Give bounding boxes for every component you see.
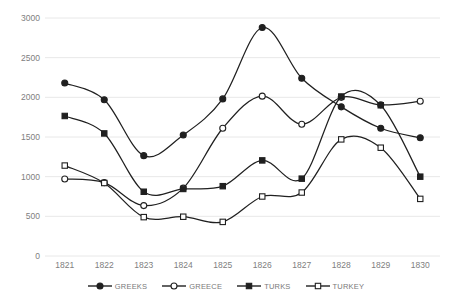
data-point-marker — [418, 174, 423, 179]
data-point-marker — [220, 125, 226, 131]
series-line — [65, 136, 421, 223]
data-point-marker — [338, 104, 344, 110]
data-point-marker — [180, 132, 186, 138]
series-layer — [45, 18, 440, 256]
data-point-marker — [259, 93, 265, 99]
data-point-marker — [171, 283, 177, 289]
y-axis-tick-label: 500 — [6, 212, 40, 220]
data-point-marker — [181, 214, 186, 219]
data-point-marker — [141, 214, 146, 219]
data-point-marker — [62, 113, 67, 118]
data-point-marker — [260, 194, 265, 199]
legend-marker-open-square — [305, 281, 331, 291]
legend-marker-filled-square — [236, 281, 262, 291]
x-axis-tick-label: 1823 — [124, 260, 164, 270]
data-point-marker — [62, 176, 68, 182]
y-axis: 050010001500200025003000 — [0, 18, 40, 256]
data-point-marker — [62, 163, 67, 168]
legend-item-turks[interactable]: TURKS — [236, 281, 290, 291]
x-axis-tick-label: 1828 — [321, 260, 361, 270]
data-point-marker — [220, 219, 225, 224]
x-axis-tick-label: 1822 — [84, 260, 124, 270]
data-point-marker — [97, 283, 103, 289]
x-axis-tick-label: 1826 — [242, 260, 282, 270]
series-line — [65, 27, 421, 157]
data-point-marker — [299, 121, 305, 127]
y-axis-tick-label: 0 — [6, 252, 40, 260]
x-axis-tick-label: 1821 — [45, 260, 85, 270]
y-axis-tick-label: 3000 — [6, 14, 40, 22]
legend-marker-open-circle — [161, 281, 187, 291]
data-point-marker — [101, 97, 107, 103]
data-point-marker — [378, 145, 383, 150]
legend-item-turkey[interactable]: TURKEY — [305, 281, 365, 291]
legend-item-greeks[interactable]: GREEKS — [87, 281, 147, 291]
data-point-marker — [220, 183, 225, 188]
data-point-marker — [102, 180, 107, 185]
data-point-marker — [220, 96, 226, 102]
data-point-marker — [299, 176, 304, 181]
x-axis-tick-label: 1827 — [282, 260, 322, 270]
plot-area — [45, 18, 440, 256]
data-point-marker — [378, 125, 384, 131]
x-axis-tick-label: 1825 — [203, 260, 243, 270]
data-point-marker — [417, 98, 423, 104]
data-point-marker — [259, 25, 265, 31]
series-greeks — [62, 25, 424, 159]
y-axis-tick-label: 2500 — [6, 54, 40, 62]
data-point-marker — [339, 137, 344, 142]
chart-legend: GREEKSGREECETURKSTURKEY — [0, 281, 451, 291]
data-point-marker — [141, 189, 146, 194]
data-point-marker — [141, 203, 147, 209]
data-point-marker — [339, 94, 344, 99]
series-line — [65, 96, 421, 206]
x-axis-tick-label: 1824 — [163, 260, 203, 270]
x-axis: 1821182218231824182518261827182818291830 — [45, 260, 440, 274]
data-point-marker — [378, 103, 383, 108]
legend-label: TURKEY — [333, 282, 365, 291]
data-point-marker — [181, 186, 186, 191]
data-point-marker — [299, 190, 304, 195]
line-chart: 050010001500200025003000 182118221823182… — [0, 0, 451, 306]
legend-label: GREECE — [189, 282, 222, 291]
data-point-marker — [246, 283, 251, 288]
y-axis-tick-label: 1500 — [6, 133, 40, 141]
legend-label: TURKS — [264, 282, 290, 291]
legend-marker-filled-circle — [87, 281, 113, 291]
x-axis-tick-label: 1829 — [361, 260, 401, 270]
data-point-marker — [418, 196, 423, 201]
data-point-marker — [417, 135, 423, 141]
data-point-marker — [62, 80, 68, 86]
x-axis-tick-label: 1830 — [400, 260, 440, 270]
y-axis-tick-label: 2000 — [6, 93, 40, 101]
data-point-marker — [102, 131, 107, 136]
data-point-marker — [315, 283, 320, 288]
data-point-marker — [299, 75, 305, 81]
y-axis-tick-label: 1000 — [6, 173, 40, 181]
legend-item-greece[interactable]: GREECE — [161, 281, 222, 291]
data-point-marker — [141, 153, 147, 159]
legend-label: GREEKS — [115, 282, 147, 291]
data-point-marker — [260, 158, 265, 163]
